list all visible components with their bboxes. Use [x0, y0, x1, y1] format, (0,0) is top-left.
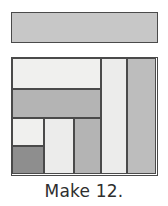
patch-mid-left-medium-rectangle	[12, 89, 101, 118]
patch-tall-light-strip	[101, 58, 127, 174]
fabric-strip-bar	[11, 12, 158, 43]
patch-lower-center-light-rectangle	[44, 118, 74, 174]
patch-lower-right-medium-rectangle	[74, 118, 101, 174]
patch-lower-left-light-square	[12, 118, 44, 146]
make-quantity-caption: Make 12.	[0, 181, 168, 202]
pieced-quilt-block	[11, 57, 158, 176]
quilt-block-figure: Make 12.	[0, 0, 168, 206]
patch-top-left-light-rectangle	[12, 58, 101, 89]
patch-lower-left-dark-square	[12, 146, 44, 174]
patch-tall-medium-strip	[127, 58, 156, 174]
